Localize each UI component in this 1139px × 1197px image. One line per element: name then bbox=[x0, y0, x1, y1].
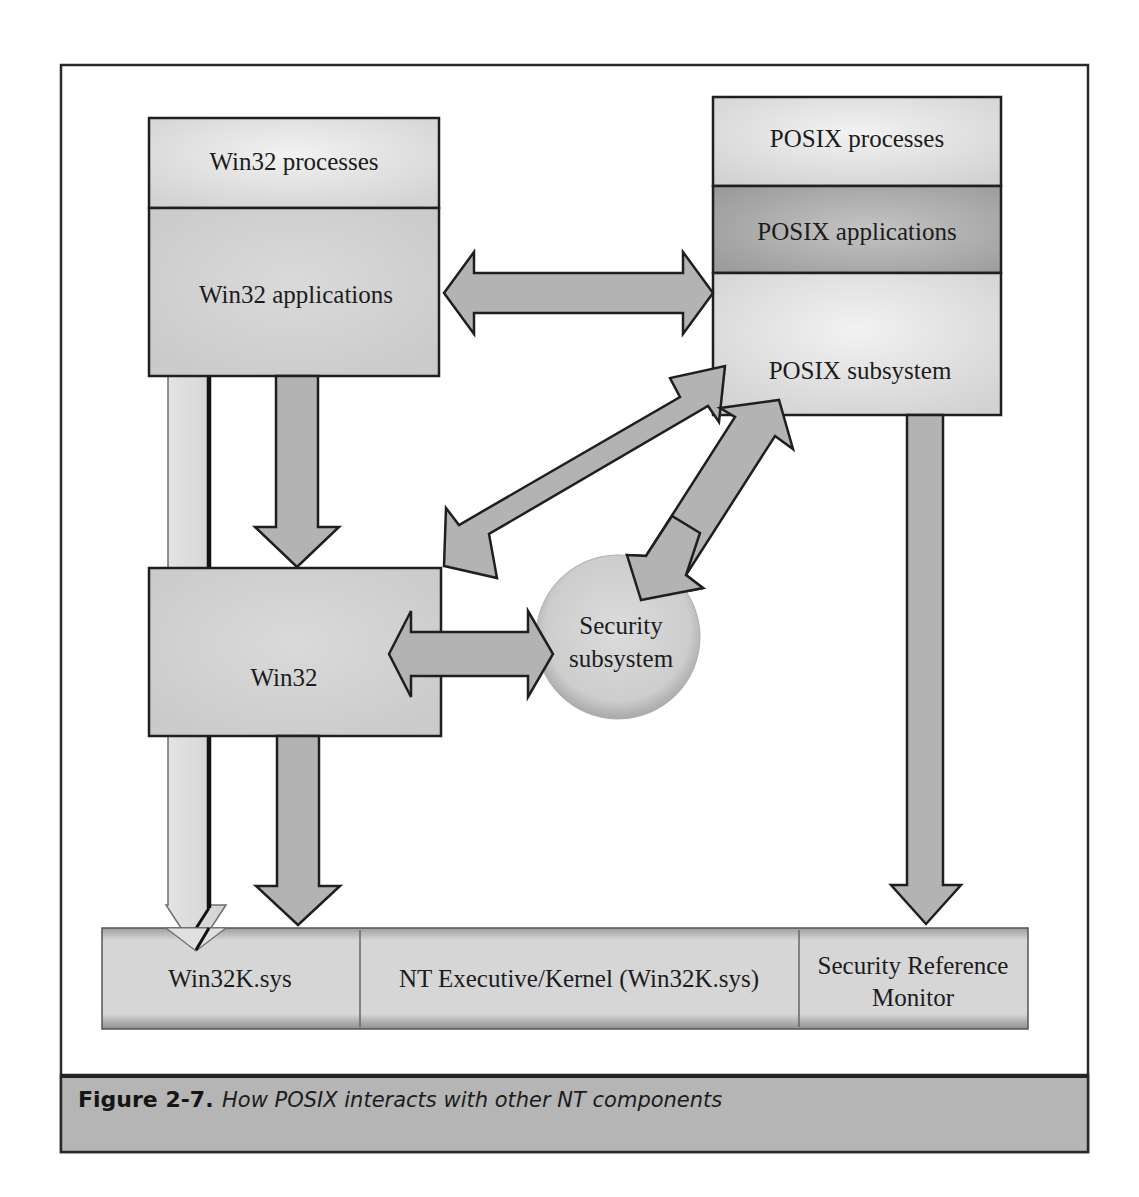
kernel-cell-win32k: Win32K.sys bbox=[168, 965, 291, 992]
caption-band: Figure 2-7. How POSIX interacts with oth… bbox=[61, 1075, 1088, 1152]
kernel-cell-srm-line1: Security Reference bbox=[818, 952, 1009, 979]
win32-processes-label: Win32 processes bbox=[209, 148, 378, 175]
posix-nt-components-diagram: Figure 2-7. How POSIX interacts with oth… bbox=[0, 0, 1139, 1197]
kernel-cell-srm-line2: Monitor bbox=[872, 984, 955, 1011]
win32-stack: Win32 processes Win32 applications bbox=[149, 118, 439, 376]
win32-applications-label: Win32 applications bbox=[199, 281, 393, 308]
posix-subsystem-label: POSIX subsystem bbox=[769, 357, 952, 384]
posix-subsystem-box bbox=[713, 273, 1001, 415]
win32-label: Win32 bbox=[250, 664, 317, 691]
posix-stack: POSIX processes POSIX applications POSIX… bbox=[713, 97, 1001, 415]
kernel-bar: Win32K.sys NT Executive/Kernel (Win32K.s… bbox=[102, 928, 1028, 1029]
posix-processes-label: POSIX processes bbox=[770, 125, 944, 152]
kernel-cell-nt-executive: NT Executive/Kernel (Win32K.sys) bbox=[399, 965, 759, 993]
figure-number: Figure 2-7. bbox=[78, 1087, 214, 1112]
figure-caption: How POSIX interacts with other NT compon… bbox=[222, 1088, 722, 1112]
security-subsystem-label-line1: Security bbox=[579, 612, 663, 639]
security-subsystem-label-line2: subsystem bbox=[569, 645, 674, 672]
posix-applications-label: POSIX applications bbox=[757, 218, 956, 245]
